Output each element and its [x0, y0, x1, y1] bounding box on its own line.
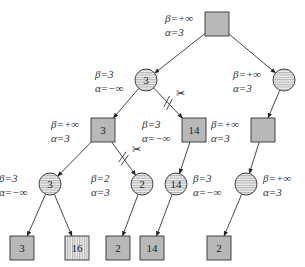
node-value: 14 [171, 178, 183, 190]
edge-line [157, 194, 173, 236]
labels-layer: β=+∞α=3β=3α=−∞β=+∞α=3β=+∞α=3β=3α=−∞β=+∞α… [0, 12, 291, 198]
scissors-icon: ✂ [176, 87, 185, 99]
alpha-label: α=−∞ [193, 186, 222, 198]
tree-node-n1: 3 [135, 69, 157, 91]
tree-node-n5 [251, 118, 275, 142]
leaf-node-l2: 16 [65, 236, 89, 260]
edge-line [123, 194, 139, 236]
beta-label: β=+∞ [262, 172, 291, 184]
node-value: 2 [115, 242, 121, 254]
leaf-node-l3: 2 [106, 236, 130, 260]
max-node-square [205, 12, 229, 36]
min-node-circle [273, 69, 295, 91]
beta-label: β=3 [141, 118, 161, 130]
edge-n3-n7: ✂ [112, 142, 141, 175]
tree-node-n6: 3 [39, 173, 61, 195]
edge-n3-n6 [58, 142, 92, 176]
min-node-circle [235, 173, 257, 195]
edge-n7-l3 [123, 194, 139, 236]
node-value: 2 [139, 178, 145, 190]
node-value: 14 [147, 242, 159, 254]
alpha-label: α=3 [51, 132, 70, 144]
node-value: 3 [143, 74, 149, 86]
alpha-label: α=3 [165, 26, 184, 38]
edge-n6-l2 [54, 194, 72, 236]
beta-label: β=3 [94, 68, 114, 80]
alpha-label: α=−∞ [142, 132, 171, 144]
edge-line [155, 33, 205, 73]
max-node-square [251, 118, 275, 142]
node-value: 3 [19, 242, 25, 254]
node-value: 16 [72, 242, 84, 254]
edge-line [249, 142, 259, 174]
edge-line [54, 194, 72, 236]
edge-n8-l4 [157, 194, 173, 236]
leaf-node-l4: 14 [140, 236, 164, 260]
alpha-label: α=3 [263, 186, 282, 198]
node-value: 3 [47, 178, 53, 190]
node-value: 3 [100, 124, 106, 136]
alpha-label: α=3 [211, 132, 230, 144]
tree-node-n7: 2 [131, 173, 153, 195]
tree-node-n8: 14 [165, 173, 187, 195]
alpha-label: α=3 [233, 82, 252, 94]
scissors-icon: ✂ [132, 143, 141, 155]
tree-node-n9 [235, 173, 257, 195]
edge-n6-l1 [27, 194, 45, 236]
game-tree-diagram: ✂✂ 331432143162142 β=+∞α=3β=3α=−∞β=+∞α=3… [0, 0, 305, 267]
beta-label: β=3 [0, 172, 18, 184]
edge-line [27, 194, 45, 236]
beta-label: β=2 [90, 172, 110, 184]
beta-label: β=+∞ [210, 118, 239, 130]
edge-line [268, 90, 280, 118]
edge-line [179, 142, 190, 174]
tree-node-n2 [273, 69, 295, 91]
beta-label: β=+∞ [50, 118, 79, 130]
beta-label: β=+∞ [232, 68, 261, 80]
node-value: 14 [189, 124, 201, 136]
alpha-label: α=3 [91, 186, 110, 198]
alpha-label: α=−∞ [95, 82, 124, 94]
edge-line [224, 194, 242, 236]
edge-n5-n9 [249, 142, 259, 174]
leaf-node-l1: 3 [10, 236, 34, 260]
tree-node-n3: 3 [91, 118, 115, 142]
tree-node-root [205, 12, 229, 36]
leaf-node-l5: 2 [207, 236, 231, 260]
edge-n1-n4: ✂ [154, 87, 185, 118]
beta-label: β=3 [192, 172, 212, 184]
alpha-label: α=−∞ [0, 186, 28, 198]
edge-n2-n5 [268, 90, 280, 118]
node-value: 2 [216, 242, 222, 254]
edge-n9-l5 [224, 194, 242, 236]
edge-root-n1 [155, 33, 205, 73]
tree-node-n4: 14 [182, 118, 206, 142]
edge-line [58, 142, 92, 176]
beta-label: β=+∞ [164, 12, 193, 24]
edge-n4-n8 [179, 142, 190, 174]
